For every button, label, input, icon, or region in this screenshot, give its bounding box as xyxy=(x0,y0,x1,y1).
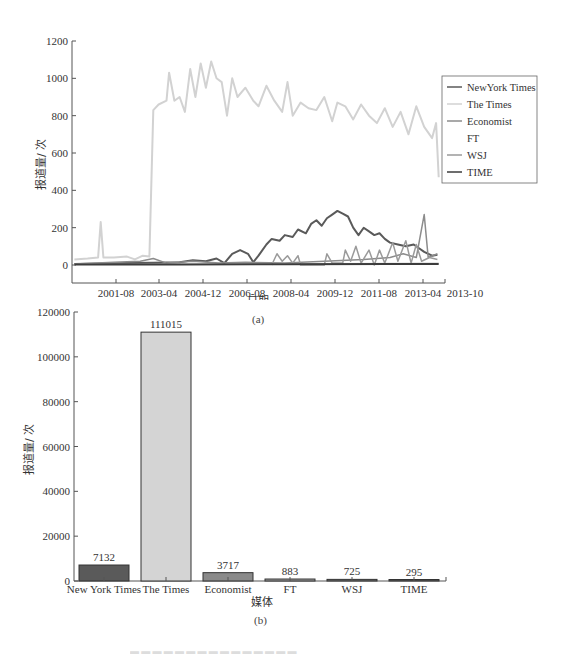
y-tick-label: 60000 xyxy=(43,441,71,453)
bar-chart-total-coverage: 020000400006000080000100000120000 7132Ne… xyxy=(0,0,570,659)
bar-value-label: 7132 xyxy=(93,551,115,563)
x-tick-label: New York Times xyxy=(67,583,141,595)
x-axis-label-b: 媒体 xyxy=(251,595,273,609)
y-tick-label: 100000 xyxy=(37,351,71,363)
y-axis-label-b: 报道量/ 次 xyxy=(22,424,36,475)
bar-ft: 883FT xyxy=(265,565,315,595)
bar-value-label: 883 xyxy=(282,565,299,577)
y-tick-label: 20000 xyxy=(43,530,71,542)
bar-time: 295TIME xyxy=(389,566,439,596)
bar-value-label: 295 xyxy=(406,566,423,578)
x-tick-label: The Times xyxy=(143,583,190,595)
x-tick-label: Economist xyxy=(204,583,251,595)
y-axis-b: 020000400006000080000100000120000 xyxy=(37,306,78,587)
figure-caption-cut-off: ▬ ▬ ▬ ▬ ▬ ▬ ▬ ▬ ▬ ▬ ▬ ▬ ▬ ▬ ▬ xyxy=(130,646,430,656)
bars: 7132New York Times111015The Times3717Eco… xyxy=(67,318,439,595)
y-ticks-b: 020000400006000080000100000120000 xyxy=(37,306,78,587)
y-tick-label: 40000 xyxy=(43,485,71,497)
x-tick-label: FT xyxy=(284,583,297,595)
y-tick-label: 120000 xyxy=(37,306,71,318)
bar-value-label: 111015 xyxy=(150,318,183,330)
bar-value-label: 725 xyxy=(344,565,361,577)
x-tick-label: TIME xyxy=(401,583,428,595)
bar-wsj: 725WSJ xyxy=(327,565,377,595)
x-tick-label: WSJ xyxy=(342,583,364,595)
bar-new-york-times: 7132New York Times xyxy=(67,551,141,595)
bar-economist: 3717Economist xyxy=(203,559,253,595)
panel-label-b: (b) xyxy=(254,614,267,626)
bar-value-label: 3717 xyxy=(217,559,240,571)
y-tick-label: 80000 xyxy=(43,396,71,408)
bar-the-times: 111015The Times xyxy=(141,318,191,595)
